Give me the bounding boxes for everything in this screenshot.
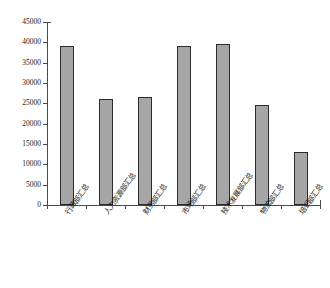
x-axis-tick <box>281 205 282 209</box>
y-axis-tick-label: 5000 <box>26 181 41 189</box>
y-axis-tick-label: 30000 <box>22 79 41 87</box>
x-axis-tick <box>242 205 243 209</box>
x-axis-tick <box>86 205 87 209</box>
y-axis-tick-label: 25000 <box>22 99 41 107</box>
y-axis-top-cap <box>47 22 51 23</box>
x-axis-tick <box>125 205 126 209</box>
x-axis-tick <box>164 205 165 209</box>
y-axis-tick <box>43 164 47 165</box>
y-axis-tick-label: 40000 <box>22 38 41 46</box>
bar-chart: 4500040000350003000025000200001500010000… <box>0 0 330 288</box>
y-axis-tick-label: 10000 <box>22 160 41 168</box>
y-axis-tick-label: 15000 <box>22 140 41 148</box>
bar <box>216 44 230 205</box>
y-axis-tick <box>43 144 47 145</box>
bar <box>99 99 113 205</box>
y-axis-tick-label: 35000 <box>22 59 41 67</box>
y-axis-tick <box>43 124 47 125</box>
bar <box>255 105 269 205</box>
bar <box>60 46 74 205</box>
y-axis-tick <box>43 22 47 23</box>
y-axis-tick-label: 45000 <box>22 18 41 26</box>
y-axis-tick <box>43 42 47 43</box>
bar <box>138 97 152 205</box>
x-axis-tick <box>320 205 321 209</box>
y-axis-tick-label: 20000 <box>22 120 41 128</box>
y-axis-tick <box>43 103 47 104</box>
x-axis-tick <box>203 205 204 209</box>
y-axis-line <box>47 22 48 206</box>
x-axis-tick <box>47 205 48 209</box>
y-axis-tick-label: 0 <box>37 201 41 209</box>
y-axis-tick <box>43 83 47 84</box>
y-axis-tick <box>43 63 47 64</box>
y-axis-tick <box>43 185 47 186</box>
bar <box>177 46 191 205</box>
